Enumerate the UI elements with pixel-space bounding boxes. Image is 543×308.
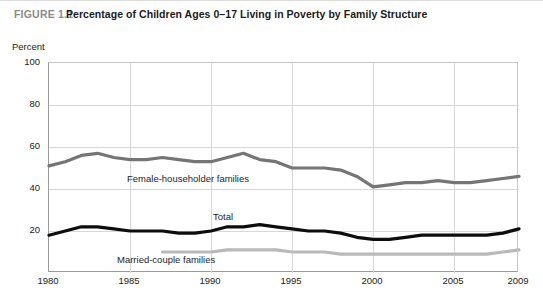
- x-tick-1985: 1985: [106, 275, 152, 286]
- series-line-married-couple: [162, 250, 519, 254]
- page-title: Percentage of Children Ages 0–17 Living …: [66, 8, 427, 20]
- x-tick-2009: 2009: [495, 275, 541, 286]
- series-line-total: [49, 225, 519, 240]
- y-tick-80: 80: [0, 98, 40, 109]
- x-tick-1980: 1980: [25, 275, 71, 286]
- y-tick-40: 40: [0, 182, 40, 193]
- series-label-female-householder: Female-householder families: [127, 173, 249, 184]
- figure-title-bar: FIGURE 1.1 Percentage of Children Ages 0…: [0, 0, 543, 28]
- y-tick-20: 20: [0, 224, 40, 235]
- y-tick-60: 60: [0, 140, 40, 151]
- x-tick-1995: 1995: [268, 275, 314, 286]
- x-tick-2000: 2000: [349, 275, 395, 286]
- plot-area: Female-householder families Total Marrie…: [48, 62, 518, 272]
- title-top-rule: [0, 0, 543, 1]
- figure-number: FIGURE 1.1: [14, 8, 73, 20]
- series-label-married-couple: Married-couple families: [117, 254, 215, 265]
- x-tick-2005: 2005: [430, 275, 476, 286]
- y-tick-100: 100: [0, 56, 40, 67]
- series-lines: [49, 63, 519, 273]
- figure-container: FIGURE 1.1 Percentage of Children Ages 0…: [0, 0, 543, 308]
- series-line-female-householder: [49, 153, 519, 187]
- x-tick-1990: 1990: [187, 275, 233, 286]
- series-label-total: Total: [213, 211, 233, 222]
- y-axis-label: Percent: [12, 41, 45, 52]
